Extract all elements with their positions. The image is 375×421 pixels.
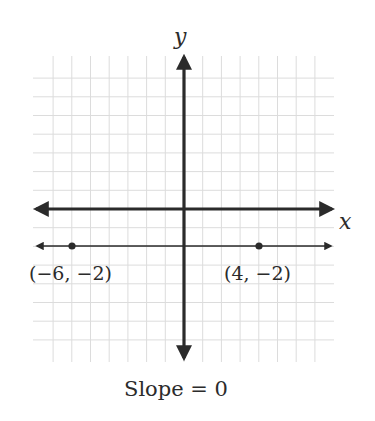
- point-4-neg2: [255, 242, 262, 249]
- point-label-neg6-neg2: (−6, −2): [29, 262, 112, 284]
- y-axis-label: y: [173, 24, 187, 49]
- point-label-4-neg2: (4, −2): [224, 262, 291, 284]
- slope-caption: Slope = 0: [124, 377, 228, 401]
- coordinate-plane-figure: y x (−6, −2) (4, −2) Slope = 0: [0, 0, 375, 421]
- x-axis-label: x: [339, 209, 352, 234]
- point-neg6-neg2: [68, 242, 75, 249]
